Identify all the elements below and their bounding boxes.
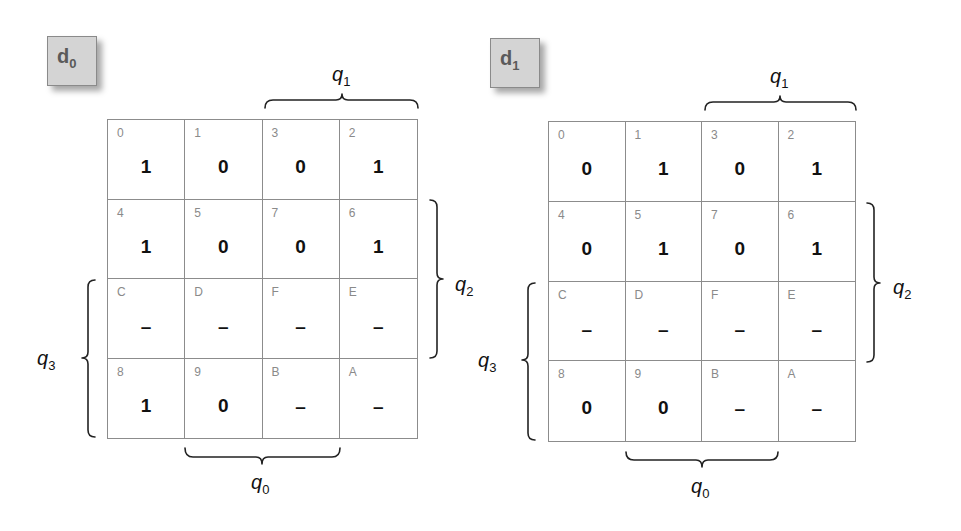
variable-label-q0: q0 bbox=[251, 472, 269, 492]
variable-label-q0: q0 bbox=[691, 476, 709, 496]
dont-care-value: – bbox=[263, 317, 339, 336]
map-label-text: d0 bbox=[57, 46, 76, 66]
dont-care-value: – bbox=[779, 320, 856, 339]
cell-index: 0 bbox=[117, 127, 124, 139]
cell-index: 6 bbox=[349, 207, 356, 219]
brace-q0-d1 bbox=[626, 452, 778, 467]
cell-index: D bbox=[635, 289, 644, 301]
kmap-cell: 00 bbox=[549, 122, 626, 202]
cell-index: 5 bbox=[635, 209, 642, 221]
brace-q1-d1 bbox=[705, 96, 856, 110]
cell-index: 8 bbox=[558, 368, 565, 380]
karnaugh-map-figure: d0 01 10 30 21 41 50 70 61 C– D– F– E– 8… bbox=[0, 0, 961, 531]
kmap-cell: 21 bbox=[340, 120, 417, 200]
cell-index: 5 bbox=[194, 207, 201, 219]
cell-value: 1 bbox=[779, 159, 856, 178]
dont-care-value: – bbox=[549, 320, 625, 339]
cell-value: 0 bbox=[185, 396, 261, 415]
kmap-cell: C– bbox=[108, 279, 185, 359]
cell-value: 0 bbox=[263, 157, 339, 176]
cell-index: 6 bbox=[788, 209, 795, 221]
kmap-cell: 51 bbox=[626, 202, 703, 282]
cell-value: 1 bbox=[108, 237, 184, 256]
kmap-cell: D– bbox=[626, 282, 703, 362]
cell-value: 1 bbox=[626, 239, 702, 258]
cell-value: 0 bbox=[549, 239, 625, 258]
kmap-grid-d0: 01 10 30 21 41 50 70 61 C– D– F– E– 81 9… bbox=[107, 119, 418, 439]
kmap-cell: 11 bbox=[626, 122, 703, 202]
cell-index: C bbox=[558, 289, 567, 301]
cell-value: 0 bbox=[626, 398, 702, 417]
variable-label-q1: q1 bbox=[770, 66, 788, 86]
cell-index: 7 bbox=[711, 209, 718, 221]
brace-q3-d0 bbox=[82, 280, 95, 437]
kmap-cell: 80 bbox=[549, 361, 626, 441]
dont-care-value: – bbox=[263, 397, 339, 416]
kmap-cell: 30 bbox=[702, 122, 779, 202]
cell-index: F bbox=[272, 286, 279, 298]
kmap-cell: 90 bbox=[185, 359, 262, 439]
kmap-cell: A– bbox=[779, 361, 856, 441]
cell-index: 2 bbox=[788, 129, 795, 141]
cell-value: 1 bbox=[108, 396, 184, 415]
variable-label-q1: q1 bbox=[332, 64, 350, 84]
brace-q2-d0 bbox=[430, 200, 443, 358]
dont-care-value: – bbox=[108, 317, 184, 336]
cell-index: D bbox=[194, 286, 203, 298]
kmap-cell: E– bbox=[340, 279, 417, 359]
cell-index: 3 bbox=[711, 129, 718, 141]
kmap-cell: 41 bbox=[108, 200, 185, 280]
kmap-cell: 40 bbox=[549, 202, 626, 282]
variable-label-q2: q2 bbox=[455, 274, 473, 294]
cell-index: 3 bbox=[272, 127, 279, 139]
dont-care-value: – bbox=[779, 399, 856, 418]
cell-index: 4 bbox=[558, 209, 565, 221]
dont-care-value: – bbox=[626, 320, 702, 339]
dont-care-value: – bbox=[702, 399, 778, 418]
kmap-cell: 01 bbox=[108, 120, 185, 200]
kmap-cell: 70 bbox=[702, 202, 779, 282]
kmap-cell: F– bbox=[263, 279, 340, 359]
cell-value: 1 bbox=[340, 157, 417, 176]
cell-index: C bbox=[117, 286, 126, 298]
dont-care-value: – bbox=[702, 320, 778, 339]
cell-value: 0 bbox=[549, 159, 625, 178]
cell-value: 0 bbox=[549, 398, 625, 417]
cell-index: E bbox=[349, 286, 357, 298]
map-label-text: d1 bbox=[500, 48, 519, 68]
cell-value: 1 bbox=[340, 237, 417, 256]
kmap-cell: F– bbox=[702, 282, 779, 362]
map-label-d1: d1 bbox=[490, 38, 540, 88]
cell-index: E bbox=[788, 289, 796, 301]
variable-label-q3: q3 bbox=[478, 350, 496, 370]
kmap-cell: 50 bbox=[185, 200, 262, 280]
cell-value: 0 bbox=[702, 239, 778, 258]
dont-care-value: – bbox=[340, 397, 417, 416]
kmap-cell: D– bbox=[185, 279, 262, 359]
kmap-cell: 81 bbox=[108, 359, 185, 439]
kmap-cell: 61 bbox=[779, 202, 856, 282]
kmap-cell: 21 bbox=[779, 122, 856, 202]
kmap-cell: 70 bbox=[263, 200, 340, 280]
cell-index: B bbox=[272, 366, 280, 378]
kmap-grid-d1: 00 11 30 21 40 51 70 61 C– D– F– E– 80 9… bbox=[548, 121, 856, 442]
cell-index: A bbox=[788, 368, 796, 380]
cell-index: 4 bbox=[117, 207, 124, 219]
cell-value: 0 bbox=[702, 159, 778, 178]
cell-value: 0 bbox=[263, 237, 339, 256]
kmap-cell: 90 bbox=[626, 361, 703, 441]
kmap-cell: 10 bbox=[185, 120, 262, 200]
cell-value: 1 bbox=[779, 239, 856, 258]
cell-index: 1 bbox=[635, 129, 642, 141]
dont-care-value: – bbox=[340, 317, 417, 336]
variable-label-q3: q3 bbox=[37, 348, 55, 368]
brace-q0-d0 bbox=[185, 448, 340, 464]
cell-value: 1 bbox=[626, 159, 702, 178]
kmap-cell: 30 bbox=[263, 120, 340, 200]
kmap-cell: B– bbox=[263, 359, 340, 439]
cell-value: 1 bbox=[108, 157, 184, 176]
cell-index: 0 bbox=[558, 129, 565, 141]
cell-index: 2 bbox=[349, 127, 356, 139]
kmap-cell: 61 bbox=[340, 200, 417, 280]
cell-value: 0 bbox=[185, 157, 261, 176]
